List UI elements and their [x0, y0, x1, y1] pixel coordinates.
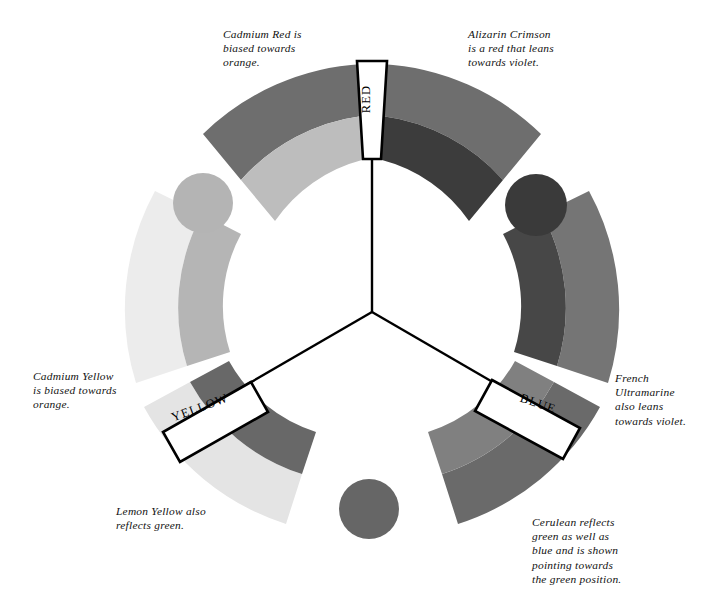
caption-cadmium-yellow: Cadmium Yellow is biased towards orange.	[33, 369, 193, 412]
spoke-yellow	[241, 312, 372, 388]
caption-french-ultramarine: French Ultramarine also leans towards vi…	[615, 371, 721, 428]
spoke-blue	[372, 312, 503, 388]
segment-cerulean	[428, 361, 600, 524]
caption-cerulean: Cerulean reflects green as well as blue …	[532, 515, 721, 586]
caption-cadmium-red: Cadmium Red is biased towards orange.	[223, 27, 403, 70]
red-label-text: RED	[359, 85, 374, 113]
violet-circle	[505, 174, 567, 236]
caption-lemon-yellow: Lemon Yellow also reflects green.	[116, 504, 306, 532]
orange-circle	[173, 173, 233, 233]
color-wheel-figure: RED YELLOW BLUE Cadmium Red is biased to…	[0, 0, 721, 600]
green-circle	[339, 479, 399, 539]
caption-alizarin-crimson: Alizarin Crimson is a red that leans tow…	[468, 27, 658, 70]
